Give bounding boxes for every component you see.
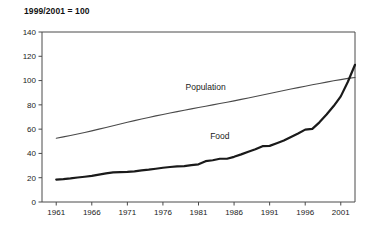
x-tick-label: 1971 xyxy=(118,208,136,217)
y-tick-label: 40 xyxy=(27,149,36,158)
x-tick-label: 1981 xyxy=(190,208,208,217)
y-tick-label: 80 xyxy=(27,101,36,110)
series-label-population: Population xyxy=(186,82,226,92)
y-tick-label: 0 xyxy=(32,198,37,207)
x-tick-label: 1961 xyxy=(47,208,65,217)
y-tick-label: 100 xyxy=(23,76,37,85)
chart-container: 1999/2001 = 100 020406080100120140 19611… xyxy=(0,0,368,229)
x-tick-label: 1996 xyxy=(296,208,314,217)
series-annotations-group: PopulationFood xyxy=(186,82,230,141)
y-tick-label: 20 xyxy=(27,174,36,183)
series-label-food: Food xyxy=(210,131,230,141)
x-axis-tick-labels: 196119661971197619811986199119962001 xyxy=(47,208,350,217)
x-tick-label: 1991 xyxy=(261,208,279,217)
x-tick-label: 1986 xyxy=(225,208,243,217)
y-tick-label: 140 xyxy=(23,28,37,37)
y-tick-label: 120 xyxy=(23,52,37,61)
x-tick-label: 1966 xyxy=(83,208,101,217)
x-tick-label: 2001 xyxy=(332,208,350,217)
chart-plot: 020406080100120140 196119661971197619811… xyxy=(0,0,368,229)
tick-marks-group xyxy=(39,32,341,206)
x-tick-label: 1976 xyxy=(154,208,172,217)
y-tick-label: 60 xyxy=(27,125,36,134)
y-axis-tick-labels: 020406080100120140 xyxy=(23,28,37,207)
